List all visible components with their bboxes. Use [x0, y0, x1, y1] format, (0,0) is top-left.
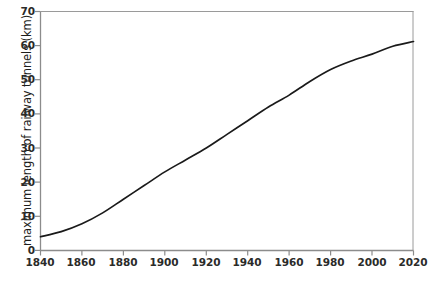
chart-figure: maximum length of railway tunnels (km) 7…	[0, 0, 432, 283]
plot-area	[0, 0, 432, 283]
data-line-series	[41, 42, 414, 237]
cropped-caption-remnant	[14, 273, 134, 281]
y-tick-marks	[35, 12, 40, 251]
x-tick-marks	[41, 251, 414, 256]
axis-spines	[40, 11, 414, 251]
